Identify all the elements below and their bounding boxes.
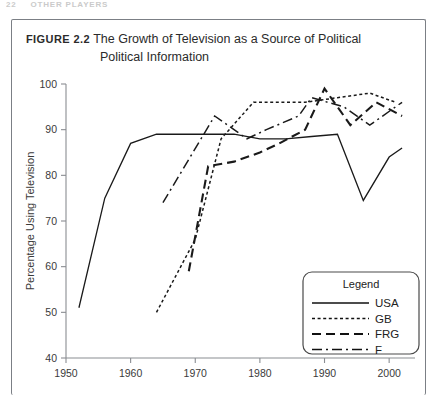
legend-label-f: F <box>375 344 382 356</box>
line-chart: 405060708090100195019601970198019902000P… <box>0 0 438 397</box>
series-line-f <box>163 98 402 203</box>
y-axis-tick-label: 90 <box>45 123 57 135</box>
x-axis-tick-label: 1980 <box>248 367 272 379</box>
y-axis-tick-label: 70 <box>45 215 57 227</box>
legend-label-gb: GB <box>375 313 392 325</box>
legend-label-usa: USA <box>375 297 399 309</box>
x-axis-tick-label: 1990 <box>313 367 337 379</box>
x-axis-tick-label: 1970 <box>184 367 208 379</box>
y-axis-tick-label: 100 <box>39 78 57 90</box>
y-axis-tick-label: 60 <box>45 260 57 272</box>
x-axis-tick-label: 2000 <box>377 367 401 379</box>
legend-title: Legend <box>343 278 380 290</box>
x-axis-tick-label: 1950 <box>54 367 78 379</box>
x-axis-tick-label: 1960 <box>119 367 143 379</box>
y-axis-title: Percentage Using Television <box>24 152 36 291</box>
y-axis-tick-label: 80 <box>45 169 57 181</box>
chart-container: 405060708090100195019601970198019902000P… <box>0 0 438 397</box>
y-axis-tick-label: 40 <box>45 352 57 364</box>
legend-label-frg: FRG <box>375 328 399 340</box>
chart-legend: LegendUSAGBFRGF <box>303 272 419 356</box>
series-line-frg <box>189 89 402 272</box>
y-axis-tick-label: 50 <box>45 306 57 318</box>
